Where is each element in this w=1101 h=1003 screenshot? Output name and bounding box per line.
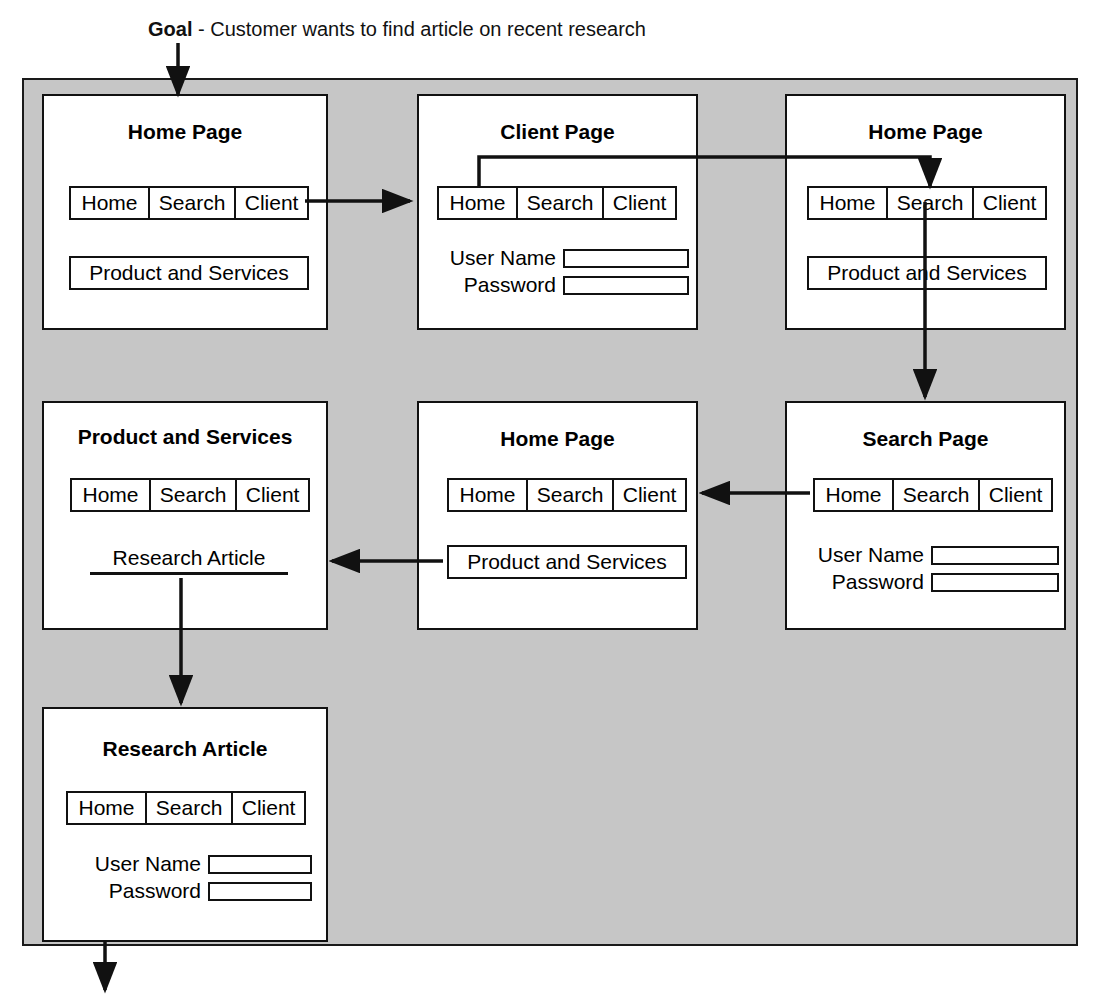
goal-label: Goal (148, 18, 192, 40)
card-title: Search Page (787, 427, 1064, 451)
card-title: Product and Services (44, 425, 326, 449)
username-row: User Name (795, 543, 1059, 567)
nav-tab-home[interactable]: Home (449, 480, 528, 510)
goal-caption: Goal - Customer wants to find article on… (148, 17, 646, 41)
nav-bar[interactable]: Home Search Client (813, 478, 1053, 512)
nav-tab-search[interactable]: Search (528, 480, 614, 510)
nav-tab-home[interactable]: Home (815, 480, 894, 510)
card-title: Home Page (419, 427, 696, 451)
username-row: User Name (427, 246, 689, 270)
nav-tab-search[interactable]: Search (147, 793, 233, 823)
password-field[interactable] (563, 276, 689, 295)
nav-tab-client[interactable]: Client (237, 480, 308, 510)
product-and-services-button[interactable]: Product and Services (807, 256, 1047, 290)
page-card-product-and-services[interactable]: Product and Services Home Search Client … (42, 401, 328, 630)
login-form: User Name Password (795, 543, 1059, 597)
login-form: User Name Password (427, 246, 689, 300)
password-field[interactable] (931, 573, 1059, 592)
nav-tab-search[interactable]: Search (151, 480, 237, 510)
password-label: Password (464, 273, 556, 297)
nav-tab-client[interactable]: Client (233, 793, 304, 823)
nav-tab-client[interactable]: Client (604, 188, 675, 218)
password-field[interactable] (208, 882, 312, 901)
card-title: Home Page (787, 120, 1064, 144)
password-label: Password (832, 570, 924, 594)
nav-bar[interactable]: Home Search Client (69, 186, 309, 220)
username-label: User Name (95, 852, 201, 876)
product-and-services-button[interactable]: Product and Services (447, 545, 687, 579)
nav-tab-client[interactable]: Client (974, 188, 1045, 218)
nav-tab-home[interactable]: Home (71, 188, 150, 218)
username-label: User Name (450, 246, 556, 270)
password-row: Password (46, 879, 312, 903)
password-row: Password (427, 273, 689, 297)
nav-bar[interactable]: Home Search Client (437, 186, 677, 220)
nav-tab-client[interactable]: Client (614, 480, 685, 510)
nav-tab-home[interactable]: Home (809, 188, 888, 218)
goal-text: Customer wants to find article on recent… (210, 18, 646, 40)
page-card-research-article[interactable]: Research Article Home Search Client User… (42, 707, 328, 942)
nav-tab-search[interactable]: Search (894, 480, 980, 510)
page-card-client-page[interactable]: Client Page Home Search Client User Name… (417, 94, 698, 330)
nav-bar[interactable]: Home Search Client (447, 478, 687, 512)
page-card-home-page-3[interactable]: Home Page Home Search Client Product and… (417, 401, 698, 630)
password-label: Password (109, 879, 201, 903)
login-form: User Name Password (46, 852, 312, 906)
username-field[interactable] (563, 249, 689, 268)
nav-tab-home[interactable]: Home (439, 188, 518, 218)
nav-tab-home[interactable]: Home (72, 480, 151, 510)
nav-bar[interactable]: Home Search Client (70, 478, 310, 512)
nav-bar[interactable]: Home Search Client (66, 791, 306, 825)
password-row: Password (795, 570, 1059, 594)
card-title: Client Page (419, 120, 696, 144)
username-field[interactable] (208, 855, 312, 874)
product-and-services-button[interactable]: Product and Services (69, 256, 309, 290)
nav-tab-client[interactable]: Client (236, 188, 307, 218)
nav-tab-client[interactable]: Client (980, 480, 1051, 510)
nav-tab-search[interactable]: Search (150, 188, 236, 218)
nav-tab-search[interactable]: Search (518, 188, 604, 218)
research-article-link[interactable]: Research Article (90, 546, 288, 575)
goal-separator: - (192, 18, 210, 40)
username-label: User Name (818, 543, 924, 567)
page-card-home-page-2[interactable]: Home Page Home Search Client Product and… (785, 94, 1066, 330)
username-row: User Name (46, 852, 312, 876)
page-card-home-page-1[interactable]: Home Page Home Search Client Product and… (42, 94, 328, 330)
username-field[interactable] (931, 546, 1059, 565)
card-title: Home Page (44, 120, 326, 144)
nav-tab-home[interactable]: Home (68, 793, 147, 823)
card-title: Research Article (44, 737, 326, 761)
nav-tab-search[interactable]: Search (888, 188, 974, 218)
nav-bar[interactable]: Home Search Client (807, 186, 1047, 220)
page-card-search-page[interactable]: Search Page Home Search Client User Name… (785, 401, 1066, 630)
